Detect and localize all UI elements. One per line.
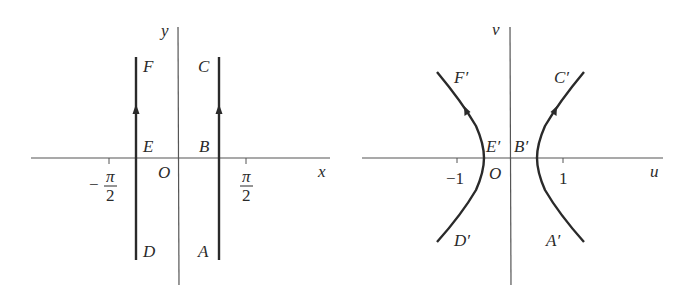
hyperbola-left-branch-DEF bbox=[437, 72, 484, 242]
u-axis-label: u bbox=[650, 162, 659, 181]
svg-text:π: π bbox=[106, 167, 115, 186]
point-label-D-prime: D′ bbox=[453, 231, 470, 250]
x-axis-label: x bbox=[317, 162, 326, 181]
point-label-B-prime: B′ bbox=[514, 137, 528, 156]
conformal-mapping-diagram: y x O F C E B D A − π 2 π 2 v bbox=[0, 0, 683, 287]
arrow-up-icon bbox=[216, 104, 223, 114]
svg-text:−: − bbox=[89, 175, 99, 194]
right-panel: v u O F′ C′ E′ B′ D′ A′ −1 1 bbox=[362, 20, 663, 285]
tick-label-pos-pi-half: π 2 bbox=[240, 167, 253, 205]
y-axis bbox=[178, 27, 179, 285]
svg-text:2: 2 bbox=[242, 186, 251, 205]
arrow-up-icon bbox=[133, 104, 140, 114]
tick-label-neg-1: −1 bbox=[446, 169, 464, 188]
tick-label-pos-1: 1 bbox=[559, 169, 568, 188]
v-axis bbox=[510, 27, 511, 285]
point-label-E: E bbox=[142, 137, 154, 156]
y-axis-label: y bbox=[159, 21, 169, 40]
point-label-E-prime: E′ bbox=[485, 137, 500, 156]
point-label-F: F bbox=[142, 57, 154, 76]
point-label-D: D bbox=[142, 242, 156, 261]
point-label-C-prime: C′ bbox=[554, 68, 569, 87]
hyperbola-right-branch-ABC bbox=[537, 72, 584, 242]
tick-label-neg-pi-half: − π 2 bbox=[89, 167, 117, 205]
svg-text:2: 2 bbox=[106, 186, 115, 205]
v-axis-label: v bbox=[492, 20, 500, 39]
point-label-C: C bbox=[198, 57, 210, 76]
origin-label: O bbox=[489, 164, 501, 183]
svg-text:π: π bbox=[242, 167, 251, 186]
point-label-F-prime: F′ bbox=[453, 68, 468, 87]
left-panel: y x O F C E B D A − π 2 π 2 bbox=[31, 21, 330, 285]
origin-label: O bbox=[158, 163, 170, 182]
point-label-A: A bbox=[197, 242, 209, 261]
point-label-B: B bbox=[199, 137, 210, 156]
point-label-A-prime: A′ bbox=[545, 231, 560, 250]
